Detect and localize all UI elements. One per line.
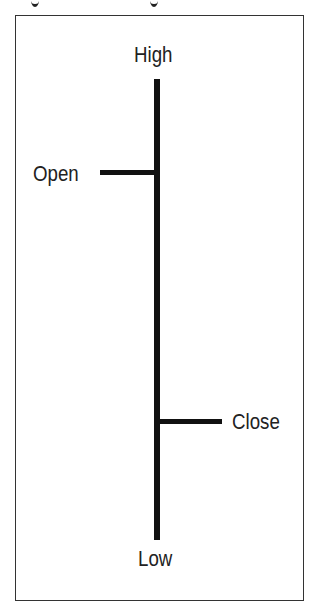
open-label: Open — [33, 163, 79, 185]
close-label: Close — [232, 411, 280, 433]
clipped-caption-fragment-1 — [31, 0, 39, 7]
clipped-caption-fragment-2 — [150, 0, 158, 7]
price-range-line — [154, 79, 160, 540]
low-label: Low — [138, 548, 172, 570]
close-tick — [158, 419, 222, 424]
high-label: High — [134, 44, 172, 66]
open-tick — [100, 170, 156, 175]
